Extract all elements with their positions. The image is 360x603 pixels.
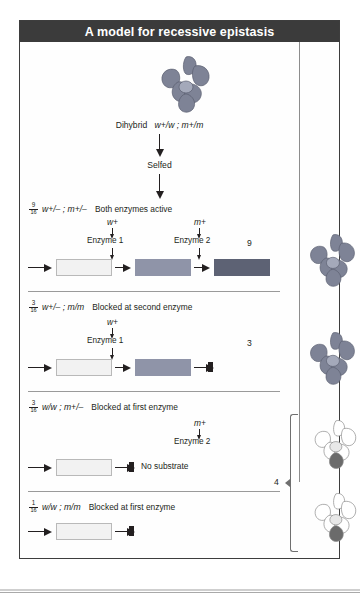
- row-1-box-1: [56, 259, 112, 276]
- cross-arrow-2: [159, 174, 160, 192]
- row-3-fraction: 3 16: [29, 400, 38, 414]
- row-3-box-1: [56, 459, 112, 476]
- row-2-enzyme-1-arrow: [112, 348, 113, 356]
- row-2-fraction-numerator: 3: [32, 300, 36, 307]
- row-1-arrow-1: [115, 267, 124, 268]
- row-3-allele-1-arrow: [199, 429, 200, 436]
- row-1-header: 9 16 w+/– ; m+/– Both enzymes active: [29, 202, 172, 216]
- row-4-description: Blocked at first enzyme: [85, 502, 176, 512]
- row-1-fraction-denominator: 16: [30, 210, 36, 216]
- row-1-count: 9: [247, 238, 252, 248]
- row-2-arrow-1: [115, 367, 124, 368]
- row-4-input-arrow: [28, 531, 45, 532]
- row-4-fraction-denominator: 16: [30, 508, 36, 514]
- row-1-arrow-2: [194, 267, 203, 268]
- row-1-box-3: [214, 259, 270, 276]
- row-3-arrow-1: [115, 467, 128, 468]
- row-4-fraction-numerator: 1: [32, 500, 36, 507]
- group-bracket: [290, 414, 298, 552]
- row-2-block-symbol: [208, 362, 213, 372]
- row-3-no-substrate-label: No substrate: [141, 461, 188, 471]
- row-2-count: 3: [247, 338, 252, 348]
- row-1-allele-2: m+: [194, 217, 206, 227]
- row-4-genotype: w/w ; m/m: [42, 502, 81, 512]
- row-4-arrow-1: [115, 531, 128, 532]
- row-2-header: 3 16 w+/– ; m/m Blocked at second enzyme: [29, 300, 192, 314]
- row-2-genotype: w+/– ; m/m: [42, 302, 84, 312]
- row-3-fraction-numerator: 3: [32, 400, 36, 407]
- row-2-fraction: 3 16: [29, 300, 38, 314]
- row-1-fraction: 9 16: [29, 202, 38, 216]
- page-rule-1: [0, 589, 360, 591]
- parent-flower-icon: [156, 54, 214, 116]
- row-4-block-symbol: [129, 526, 134, 536]
- row-2-input-arrow: [28, 367, 45, 368]
- parent-genotype: w+/w ; m+/m: [150, 120, 204, 130]
- figure-title: A model for recessive epistasis: [85, 25, 275, 39]
- row-3-flower-icon: [310, 417, 360, 473]
- figure-canvas: Dihybrid w+/w ; m+/m Selfed 9 16 w+/– ; …: [20, 42, 339, 560]
- row-3-enzyme-2-label: Enzyme 2: [174, 437, 210, 446]
- figure-panel: A model for recessive epistasis Dihybrid…: [19, 20, 340, 559]
- row-divider-1: [28, 291, 280, 292]
- row-3-fraction-denominator: 16: [30, 408, 36, 414]
- row-1-allele-2-arrow: [199, 228, 200, 235]
- row-1-enzyme-1-label: Enzyme 1: [87, 236, 123, 245]
- row-1-description: Both enzymes active: [91, 204, 172, 214]
- row-divider-2: [28, 391, 280, 392]
- row-1-allele-1: w+: [107, 217, 118, 227]
- row-2-box-1: [56, 359, 112, 376]
- row-1-fraction-numerator: 9: [32, 202, 36, 209]
- row-1-flower-icon: [305, 232, 359, 290]
- row-1-box-2: [135, 259, 191, 276]
- row-2-enzyme-1-label: Enzyme 1: [87, 336, 123, 345]
- selfed-label: Selfed: [20, 160, 299, 170]
- row-1-input-arrow: [28, 267, 45, 268]
- row-4-flower-icon: [310, 490, 360, 546]
- vertical-divider: [299, 42, 300, 482]
- figure-title-bar: A model for recessive epistasis: [20, 21, 339, 42]
- cross-arrow-1: [159, 134, 160, 150]
- row-2-allele-1-arrow: [112, 328, 113, 335]
- group-bracket-tip: [285, 479, 290, 487]
- row-2-description: Blocked at second enzyme: [88, 302, 192, 312]
- row-2-allele-1: w+: [107, 317, 118, 327]
- row-3-header: 3 16 w/w ; m+/– Blocked at first enzyme: [29, 400, 178, 414]
- row-4-header: 1 16 w/w ; m/m Blocked at first enzyme: [29, 500, 175, 514]
- row-2-arrow-2: [194, 367, 207, 368]
- row-2-fraction-denominator: 16: [30, 308, 36, 314]
- row-1-genotype: w+/– ; m+/–: [42, 204, 87, 214]
- parent-label: Dihybrid: [116, 120, 148, 130]
- row-2-box-2: [135, 359, 191, 376]
- row-divider-3: [28, 491, 280, 492]
- row-3-allele-1: m+: [194, 418, 206, 428]
- row-3-genotype: w/w ; m+/–: [42, 402, 83, 412]
- row-1-enzyme-2-arrow: [199, 248, 200, 256]
- row-3-block-symbol: [129, 462, 134, 472]
- row-4-box-1: [56, 523, 112, 540]
- parent-cross-label: Dihybrid w+/w ; m+/m: [20, 120, 299, 130]
- row-1-allele-1-arrow: [112, 228, 113, 235]
- row-1-enzyme-2-label: Enzyme 2: [174, 236, 210, 245]
- row-4-fraction: 1 16: [29, 500, 38, 514]
- page-rule-2: [0, 592, 360, 593]
- row-1-enzyme-1-arrow: [112, 248, 113, 256]
- row-2-flower-icon: [305, 330, 359, 388]
- row-3-description: Blocked at first enzyme: [87, 402, 178, 412]
- row-3-input-arrow: [28, 467, 45, 468]
- group-bracket-count: 4: [274, 477, 279, 487]
